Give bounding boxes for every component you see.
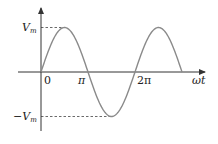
vmax-label: Vm: [22, 21, 37, 35]
origin-label: 0: [44, 74, 51, 87]
two-pi-label: 2π: [137, 74, 151, 87]
pi-label: π: [77, 74, 86, 87]
omega-t-label: ωt: [192, 74, 206, 87]
vmin-label: −Vm: [13, 110, 37, 124]
sine-wave-diagram: Vm −Vm 0 π 2π ωt: [0, 0, 218, 144]
